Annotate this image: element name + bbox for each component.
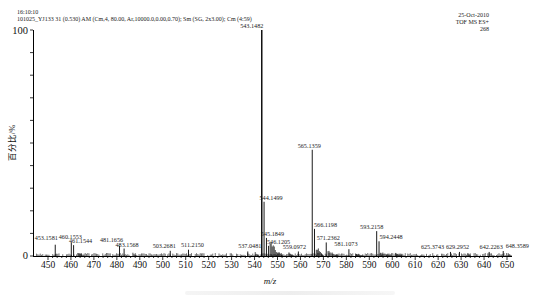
- peak-label: 544.1499: [259, 194, 282, 201]
- x-tick-label: 610: [408, 260, 423, 270]
- x-tick-label: 520: [202, 260, 217, 270]
- y-axis-title: 百分比/%: [7, 125, 17, 161]
- x-tick-label: 600: [385, 260, 400, 270]
- peak-label: 629.2952: [446, 243, 469, 250]
- peak-label: 461.1544: [69, 237, 92, 244]
- x-tick-label: 490: [133, 260, 148, 270]
- peak-label: 483.1568: [115, 241, 138, 248]
- peak-label: 511.2150: [181, 241, 204, 248]
- x-tick-label: 480: [110, 260, 125, 270]
- peak-label: 593.2158: [360, 223, 383, 230]
- x-axis-tick-labels: 4504604704804905005105205305405505605705…: [41, 260, 515, 270]
- peak-label: 453.1581: [35, 234, 58, 241]
- x-tick-label: 470: [87, 260, 102, 270]
- peak-label: 545.1849: [261, 230, 284, 237]
- y-axis-min-label: 0: [23, 250, 28, 261]
- x-tick-label: 550: [270, 260, 285, 270]
- x-tick-label: 640: [477, 260, 492, 270]
- x-axis-title: m/z: [264, 276, 277, 286]
- peak-label: 594.2448: [379, 233, 402, 240]
- peak-label: 648.3589: [506, 242, 529, 249]
- peak-label: 559.0972: [283, 243, 306, 250]
- x-tick-label: 560: [293, 260, 308, 270]
- x-tick-label: 590: [362, 260, 377, 270]
- x-tick-label: 540: [247, 260, 262, 270]
- cropped-caption-artifact: [185, 291, 395, 295]
- peak-label: 625.3743: [421, 243, 444, 250]
- axes: [33, 30, 512, 257]
- peak-label: 565.1359: [298, 142, 321, 149]
- x-tick-label: 530: [224, 260, 239, 270]
- peak-label: 543.1482: [240, 22, 263, 29]
- peak-label: 581.1073: [334, 240, 357, 247]
- y-axis-ticks: [30, 30, 33, 256]
- peak-lines: [55, 30, 503, 256]
- peak-label: 537.0481: [238, 242, 261, 249]
- mass-spectrum-report: 16:10:10 101025_YJ133 31 (0.530) AM (Cm,…: [0, 0, 538, 296]
- peak-label: 503.2681: [153, 242, 176, 249]
- mass-spectrum-chart: 4504604704804905005105205305405505605705…: [0, 0, 538, 296]
- x-tick-label: 620: [431, 260, 446, 270]
- peak-labels: 453.1581460.1553461.1544481.1656483.1568…: [35, 22, 529, 250]
- peak-label: 566.1198: [314, 221, 337, 228]
- x-tick-label: 570: [316, 260, 331, 270]
- x-tick-label: 450: [41, 260, 56, 270]
- x-tick-label: 650: [500, 260, 515, 270]
- y-axis-max-label: 100: [12, 25, 28, 36]
- x-tick-label: 580: [339, 260, 354, 270]
- peak-label: 642.2263: [480, 243, 503, 250]
- x-tick-label: 630: [454, 260, 469, 270]
- x-tick-label: 460: [64, 260, 79, 270]
- x-tick-label: 510: [179, 260, 194, 270]
- x-tick-label: 500: [156, 260, 171, 270]
